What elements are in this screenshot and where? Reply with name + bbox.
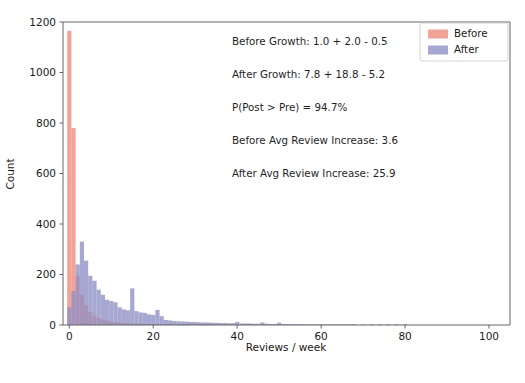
legend-swatch-after bbox=[428, 46, 448, 55]
histogram-bar-after bbox=[97, 290, 101, 325]
histogram-bar-after bbox=[147, 314, 151, 325]
histogram-bar-after bbox=[113, 302, 117, 325]
y-tick-label: 1000 bbox=[29, 66, 56, 78]
histogram-figure: 020040060080010001200 020406080100 Revie… bbox=[0, 0, 525, 383]
histogram-bar-after bbox=[118, 307, 122, 325]
annotation-line: P(Post > Pre) = 94.7% bbox=[232, 101, 347, 113]
y-tick-label: 400 bbox=[36, 218, 56, 230]
histogram-bar-after bbox=[67, 307, 71, 325]
histogram-bar-after bbox=[105, 300, 109, 325]
histogram-bar-after bbox=[134, 311, 138, 325]
legend-label-after: After bbox=[454, 43, 479, 55]
histogram-bar-after bbox=[130, 288, 134, 325]
y-tick-label: 0 bbox=[49, 319, 56, 331]
histogram-bar-after bbox=[185, 322, 189, 325]
histogram-bar-after bbox=[80, 242, 84, 325]
legend-swatch-before bbox=[428, 30, 448, 39]
histogram-bar-after bbox=[109, 301, 113, 325]
y-tick-label: 600 bbox=[36, 167, 56, 179]
histogram-bar-after bbox=[71, 291, 75, 325]
histogram-bar-after bbox=[84, 261, 88, 325]
histogram-bar-after bbox=[193, 322, 197, 325]
histogram-bar-after bbox=[172, 321, 176, 325]
y-tick-label: 800 bbox=[36, 117, 56, 129]
histogram-bar-after bbox=[126, 310, 130, 325]
histogram-bar-after bbox=[151, 315, 155, 325]
histogram-bar-after bbox=[139, 312, 143, 325]
histogram-bar-after bbox=[92, 281, 96, 325]
annotation-line: After Avg Review Increase: 25.9 bbox=[232, 167, 396, 179]
histogram-bar-after bbox=[164, 320, 168, 325]
x-tick-label: 100 bbox=[479, 330, 499, 342]
histogram-bar-before bbox=[67, 31, 71, 325]
histogram-bar-after bbox=[143, 313, 147, 325]
histogram-bar-after bbox=[235, 322, 239, 325]
histogram-bar-after bbox=[181, 321, 185, 325]
y-axis-title: Count bbox=[4, 158, 16, 189]
x-tick-label: 20 bbox=[147, 330, 160, 342]
histogram-bar-after bbox=[122, 309, 126, 325]
annotation-line: After Growth: 7.8 + 18.8 - 5.2 bbox=[232, 68, 385, 80]
histogram-bar-after bbox=[189, 322, 193, 325]
x-tick-label: 60 bbox=[314, 330, 327, 342]
chart-legend: BeforeAfter bbox=[420, 23, 508, 61]
y-tick-label: 200 bbox=[36, 268, 56, 280]
legend-label-before: Before bbox=[454, 27, 488, 39]
annotation-line: Before Growth: 1.0 + 2.0 - 0.5 bbox=[232, 35, 388, 47]
histogram-bar-after bbox=[168, 320, 172, 325]
annotation-line: Before Avg Review Increase: 3.6 bbox=[232, 134, 398, 146]
histogram-bar-after bbox=[160, 316, 164, 325]
y-tick-label: 1200 bbox=[29, 16, 56, 28]
histogram-bar-after bbox=[176, 321, 180, 325]
x-tick-label: 0 bbox=[66, 330, 73, 342]
x-axis-title: Reviews / week bbox=[246, 341, 328, 353]
x-tick-label: 40 bbox=[230, 330, 243, 342]
histogram-bar-after bbox=[101, 295, 105, 325]
histogram-bar-after bbox=[88, 276, 92, 325]
histogram-bar-after bbox=[155, 310, 159, 325]
x-tick-label: 80 bbox=[398, 330, 411, 342]
histogram-bar-after bbox=[76, 264, 80, 325]
